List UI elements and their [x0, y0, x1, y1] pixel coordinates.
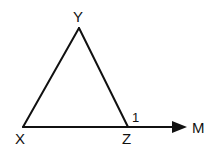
angle-label-1: 1 — [132, 110, 139, 125]
triangle-exterior-angle-diagram: Y X Z 1 M — [0, 0, 211, 154]
arrowhead-icon — [172, 121, 187, 133]
side-yz — [79, 28, 128, 127]
ray-label-m: M — [192, 119, 205, 136]
side-xy — [23, 28, 79, 127]
vertex-label-z: Z — [122, 130, 131, 147]
vertex-label-y: Y — [73, 8, 83, 25]
vertex-label-x: X — [15, 130, 25, 147]
